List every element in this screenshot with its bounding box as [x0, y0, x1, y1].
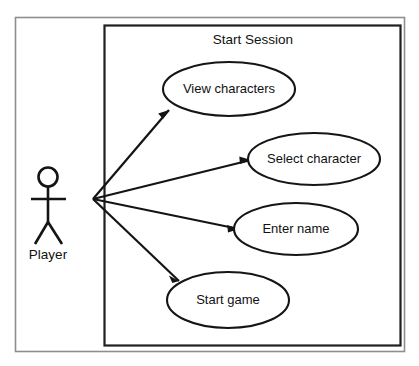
association-player-to-enter-name[interactable]: [93, 199, 239, 233]
use-case-view-characters[interactable]: View characters: [163, 62, 295, 116]
diagram-svg: Start Session View characters: [0, 0, 419, 366]
use-case-select-character[interactable]: Select character: [248, 133, 380, 185]
use-case-diagram-canvas: Start Session View characters: [0, 0, 419, 366]
actor-label: Player: [29, 247, 68, 262]
use-case-label: Select character: [267, 151, 362, 166]
actor-head-icon: [39, 168, 58, 187]
actor-left-leg-line: [35, 222, 48, 244]
use-case-label: Enter name: [262, 221, 329, 236]
use-case-label: Start game: [196, 292, 260, 307]
use-case-start-game[interactable]: Start game: [167, 272, 289, 328]
use-case-label: View characters: [183, 81, 276, 96]
use-case-enter-name[interactable]: Enter name: [234, 203, 358, 255]
arrow-head-view-characters: [158, 110, 169, 119]
actor-right-leg-line: [48, 222, 62, 244]
actor-player[interactable]: Player: [29, 168, 68, 262]
association-player-to-select-character[interactable]: [93, 157, 251, 199]
system-title: Start Session: [213, 32, 293, 47]
association-player-to-start-game[interactable]: [93, 199, 179, 283]
